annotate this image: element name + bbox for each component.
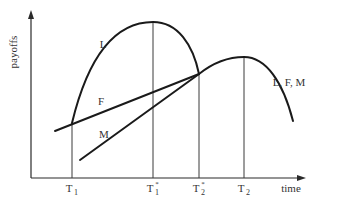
tick-t2-star-base: T — [193, 182, 200, 194]
tick-t1-base: T — [66, 182, 73, 194]
tick-t1-sub: 1 — [74, 188, 78, 197]
matching-label: M — [99, 128, 109, 140]
tick-t1-star-base: T — [147, 182, 154, 194]
matching-line — [80, 74, 199, 160]
tick-t1: T 1 — [66, 182, 78, 197]
tick-t2-star-sub: 2 — [201, 188, 205, 197]
y-axis-arrow-icon — [28, 10, 34, 19]
x-axis-label: time — [281, 182, 301, 194]
combined-curve — [199, 57, 293, 121]
tick-t1-star-sub: 1 — [155, 188, 159, 197]
leader-label: L — [100, 38, 107, 50]
tick-t2-sub: 2 — [246, 188, 250, 197]
payoff-timing-diagram: payoffs time L F M L, F, M T 1 T 1 * T 2… — [0, 0, 338, 202]
tick-t2-star-asterisk: * — [201, 180, 205, 188]
y-axis-label: payoffs — [7, 36, 19, 69]
combined-label: L, F, M — [273, 76, 306, 88]
curves — [55, 22, 293, 160]
follower-label: F — [98, 95, 104, 107]
leader-curve — [72, 22, 199, 123]
diagram-canvas: payoffs time L F M L, F, M T 1 T 1 * T 2… — [0, 0, 338, 202]
labels: payoffs time L F M L, F, M T 1 T 1 * T 2… — [7, 36, 306, 197]
x-axis-arrow-icon — [297, 175, 306, 181]
tick-t1-star: T 1 * — [147, 180, 160, 197]
tick-t2-star: T 2 * — [193, 180, 206, 197]
axes — [28, 10, 306, 181]
tick-t2: T 2 — [238, 182, 250, 197]
tick-t1-star-asterisk: * — [155, 180, 159, 188]
tick-t2-base: T — [238, 182, 245, 194]
